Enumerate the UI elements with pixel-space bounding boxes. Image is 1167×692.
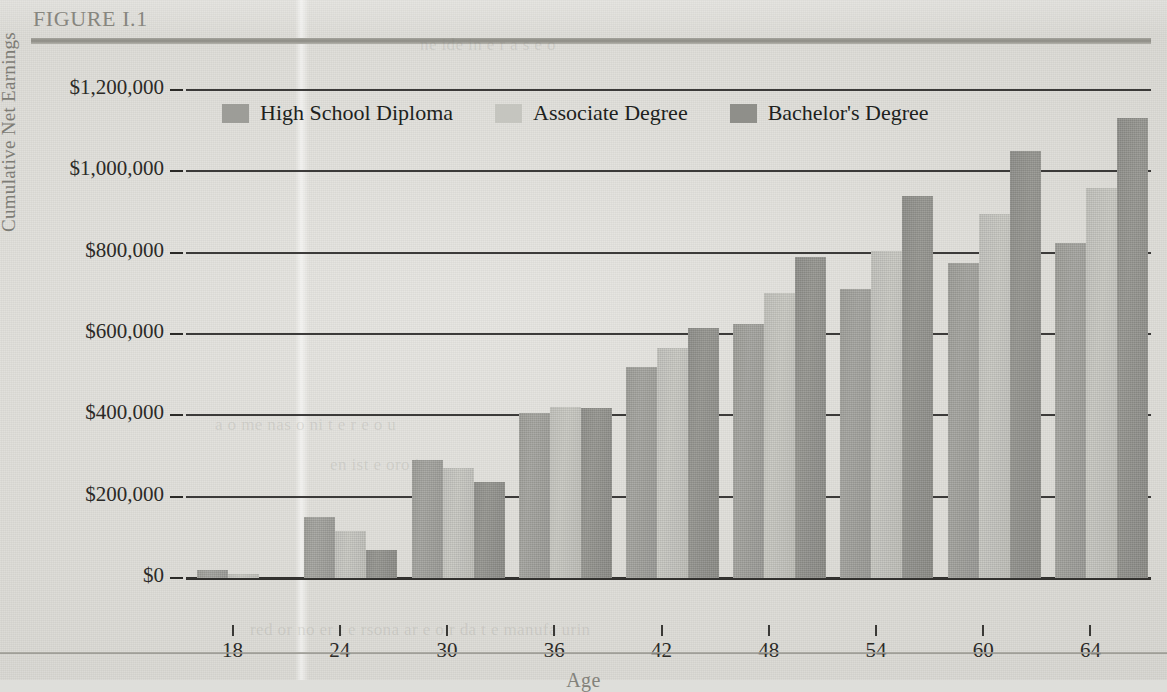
bar (733, 324, 764, 578)
legend-swatch-icon (730, 104, 757, 123)
chart-legend: High School DiplomaAssociate DegreeBache… (222, 100, 971, 126)
y-tick-mark (170, 170, 183, 172)
bar (474, 482, 505, 578)
bar (304, 517, 335, 578)
bar (626, 367, 657, 578)
x-tick-label: 18 (203, 638, 263, 663)
bar (228, 574, 259, 578)
x-tick-label: 48 (739, 638, 799, 663)
y-tick-mark (170, 333, 183, 335)
bar (519, 413, 550, 578)
x-tick-mark (875, 625, 877, 636)
bar (366, 550, 397, 578)
bar (443, 468, 474, 578)
page-rule-bottom (0, 652, 1167, 654)
legend-label: Associate Degree (533, 100, 688, 126)
x-tick-mark (339, 625, 341, 636)
x-tick-label: 60 (953, 638, 1013, 663)
bar (840, 289, 871, 578)
y-tick-label: $1,200,000 (70, 75, 165, 100)
bar (1086, 188, 1117, 578)
bar (948, 263, 979, 578)
x-tick-mark (982, 625, 984, 636)
x-axis-title: Age (0, 669, 1167, 692)
figure-label: FIGURE I.1 (33, 6, 148, 32)
bar (688, 328, 719, 578)
plot-area (186, 90, 1151, 578)
legend-label: Bachelor's Degree (768, 100, 929, 126)
gridline (186, 89, 1151, 91)
x-tick-mark (232, 625, 234, 636)
y-tick-mark (170, 577, 183, 579)
y-tick-mark (170, 496, 183, 498)
y-axis-title: Cumulative Net Earnings (0, 0, 20, 232)
bar (979, 214, 1010, 578)
bar (871, 251, 902, 578)
bar (550, 407, 581, 578)
gridline (186, 170, 1151, 172)
y-tick-mark (170, 414, 183, 416)
legend-swatch-icon (222, 104, 249, 123)
x-tick-label: 42 (632, 638, 692, 663)
bar (1055, 243, 1086, 579)
x-tick-label: 64 (1060, 638, 1120, 663)
y-tick-label: $1,000,000 (70, 156, 165, 181)
legend-item: Associate Degree (495, 100, 688, 126)
x-tick-mark (768, 625, 770, 636)
bar (581, 408, 612, 578)
y-tick-label: $0 (143, 563, 164, 588)
legend-label: High School Diploma (260, 100, 453, 126)
x-tick-label: 30 (417, 638, 477, 663)
legend-item: Bachelor's Degree (730, 100, 929, 126)
bar (335, 531, 366, 578)
x-tick-label: 24 (310, 638, 370, 663)
x-tick-mark (661, 625, 663, 636)
y-tick-mark (170, 252, 183, 254)
bar-chart: Cumulative Net Earnings $0$200,000$400,0… (0, 44, 1167, 644)
bar (197, 570, 228, 578)
x-tick-mark (446, 625, 448, 636)
bar (764, 293, 795, 578)
x-tick-label: 54 (846, 638, 906, 663)
x-tick-mark (553, 625, 555, 636)
bar (795, 257, 826, 578)
y-tick-label: $800,000 (85, 238, 164, 263)
y-tick-label: $400,000 (85, 400, 164, 425)
bar (1010, 151, 1041, 578)
legend-swatch-icon (495, 104, 522, 123)
legend-item: High School Diploma (222, 100, 453, 126)
y-tick-mark (170, 89, 183, 91)
x-tick-mark (1089, 625, 1091, 636)
bar (657, 348, 688, 578)
bar (412, 460, 443, 578)
y-tick-label: $600,000 (85, 319, 164, 344)
bar (1117, 118, 1148, 578)
bar (902, 196, 933, 578)
y-tick-label: $200,000 (85, 482, 164, 507)
x-tick-label: 36 (524, 638, 584, 663)
